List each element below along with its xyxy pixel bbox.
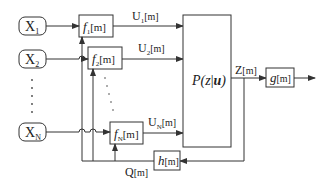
block-diagram: X1 X2 XN f1[m] f2[m] fN[m] [0, 0, 330, 185]
signal-u1-label: U1[m] [132, 9, 159, 25]
channel-block: P(z|u) [183, 15, 231, 147]
svg-text:P(z|u): P(z|u) [191, 73, 226, 89]
ellipsis-dots-inputs [31, 79, 33, 113]
input-xn: XN [19, 123, 46, 142]
svg-text:g[m]: g[m] [270, 70, 291, 85]
feedback-block-h: h[m] [154, 151, 180, 170]
signal-un-label: UN[m] [148, 115, 176, 131]
input-x2: X2 [19, 50, 46, 69]
signal-u2-label: U2[m] [138, 41, 165, 57]
svg-text:h[m]: h[m] [158, 153, 179, 168]
output-z-label: Z[m] [235, 63, 257, 77]
svg-text:X2: X2 [25, 52, 39, 69]
input-x1: X1 [19, 17, 46, 36]
decoder-g: g[m] [266, 68, 294, 87]
feedback-q-label: Q[m] [125, 165, 148, 179]
svg-text:X1: X1 [25, 19, 39, 36]
encoder-fn: fN[m] [110, 122, 143, 144]
svg-text:XN: XN [25, 125, 41, 142]
ellipsis-dots-encoders [104, 77, 114, 111]
encoder-f2: f2[m] [88, 47, 122, 69]
encoder-f1: f1[m] [79, 15, 113, 37]
input-lines [46, 26, 110, 132]
